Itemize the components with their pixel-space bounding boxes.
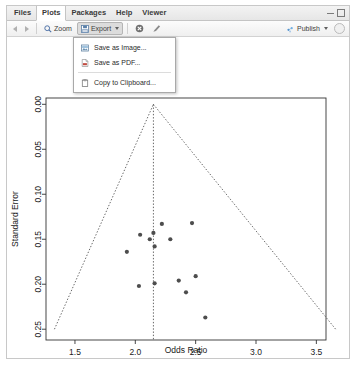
tab-files-label: Files (14, 9, 31, 17)
tab-viewer-label: Viewer (142, 9, 166, 17)
y-tick-label: 0.05 (33, 141, 43, 158)
toolbar-divider-1 (36, 23, 37, 34)
magnifier-icon (44, 25, 52, 33)
x-tick-label: 1.5 (69, 347, 81, 357)
y-axis-label: Standard Error (10, 191, 20, 247)
data-point (138, 233, 142, 237)
x-tick-label: 3.0 (250, 347, 262, 357)
data-point (151, 231, 155, 235)
export-button[interactable]: Export (77, 22, 123, 35)
chevron-down-icon (115, 27, 119, 30)
menu-divider (78, 72, 171, 73)
tab-packages[interactable]: Packages (66, 6, 111, 20)
tab-plots[interactable]: Plots (36, 6, 66, 21)
menu-item-save-as-pdf[interactable]: Save as PDF... (74, 55, 175, 70)
clear-all-plots-icon (152, 24, 161, 33)
y-tick-label: 0.10 (33, 186, 43, 203)
pane-window-controls (327, 6, 349, 20)
tab-viewer[interactable]: Viewer (137, 6, 171, 20)
plot-frame (46, 98, 326, 340)
tab-packages-label: Packages (71, 9, 106, 17)
export-button-label: Export (91, 25, 111, 32)
chevron-down-icon (324, 27, 328, 30)
remove-plot-button[interactable] (132, 22, 147, 35)
y-tick-label: 0.20 (33, 276, 43, 293)
refresh-icon[interactable] (334, 23, 345, 34)
menu-item-save-as-image[interactable]: Save as Image... (74, 40, 175, 55)
pdf-file-icon (81, 59, 89, 67)
remove-plot-icon (135, 24, 144, 33)
data-point (177, 279, 181, 283)
data-point (148, 237, 152, 241)
data-point (125, 250, 129, 254)
minimize-icon[interactable] (327, 13, 334, 14)
funnel-left-boundary (54, 104, 153, 329)
export-disk-icon (81, 25, 89, 33)
publish-icon (286, 25, 295, 33)
tab-help-label: Help (116, 9, 132, 17)
menu-item-save-as-pdf-label: Save as PDF... (94, 59, 140, 66)
funnel-plot: 1.52.02.53.03.5 0.000.050.100.150.200.25… (7, 37, 349, 358)
plots-toolbar: Zoom Export (7, 21, 349, 37)
tab-plots-label: Plots (42, 9, 60, 17)
tab-files[interactable]: Files (9, 6, 36, 20)
plots-pane: Files Plots Packages Help Viewer (6, 5, 350, 359)
next-plot-button[interactable] (22, 22, 32, 35)
y-tick-label: 0.00 (33, 96, 43, 113)
zoom-button[interactable]: Zoom (41, 22, 75, 35)
x-tick-label: 2.0 (129, 347, 141, 357)
image-file-icon (81, 44, 89, 52)
data-point (153, 244, 157, 248)
forward-arrow-icon (25, 26, 29, 32)
pane-tabbar: Files Plots Packages Help Viewer (7, 6, 349, 21)
export-dropdown-menu: Save as Image... Save as PDF... Copy to … (73, 37, 176, 93)
tab-help[interactable]: Help (111, 6, 137, 20)
data-point (194, 274, 198, 278)
data-point (153, 281, 157, 285)
publish-button[interactable]: Publish (283, 22, 331, 35)
data-point (168, 237, 172, 241)
data-point (137, 284, 141, 288)
previous-plot-button[interactable] (10, 22, 20, 35)
data-point (190, 221, 194, 225)
data-point (184, 290, 188, 294)
zoom-button-label: Zoom (54, 25, 72, 32)
plot-canvas: 1.52.02.53.03.5 0.000.050.100.150.200.25… (7, 37, 349, 358)
y-tick-label: 0.15 (33, 231, 43, 248)
menu-item-copy-to-clipboard[interactable]: Copy to Clipboard... (74, 75, 175, 90)
publish-button-label: Publish (297, 25, 320, 32)
x-tick-label: 3.5 (310, 347, 322, 357)
clipboard-icon (81, 79, 89, 87)
menu-item-copy-to-clipboard-label: Copy to Clipboard... (94, 79, 156, 86)
back-arrow-icon (13, 26, 17, 32)
data-points (125, 221, 208, 320)
y-axis-ticks: 0.000.050.100.150.200.25 (33, 96, 46, 338)
y-tick-label: 0.25 (33, 321, 43, 338)
menu-item-save-as-image-label: Save as Image... (94, 44, 147, 51)
x-axis-label: Odds Ratio (165, 345, 208, 355)
toolbar-right-group: Publish (283, 22, 349, 35)
toolbar-divider-2 (127, 23, 128, 34)
maximize-icon[interactable] (337, 9, 345, 17)
data-point (203, 315, 207, 319)
clear-all-plots-button[interactable] (149, 22, 164, 35)
data-point (160, 222, 164, 226)
funnel-right-boundary (153, 104, 335, 329)
